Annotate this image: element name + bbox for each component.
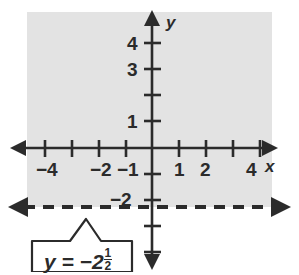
callout-fraction: 12 xyxy=(104,247,113,272)
x-tick-label-neg2: −2 xyxy=(90,160,112,179)
callout-equation-lead: y = −2 xyxy=(44,250,104,273)
x-tick-label-neg1: −1 xyxy=(117,160,139,179)
y-tick-label-neg2: −2 xyxy=(110,190,132,209)
x-axis-label: x xyxy=(265,158,274,175)
y-tick-label-4: 4 xyxy=(127,34,138,53)
dashed-line-arrow-left xyxy=(8,197,28,217)
y-tick-label-3: 3 xyxy=(127,60,138,79)
y-axis-arrow-down xyxy=(144,254,160,270)
x-tick-label-pos2: 2 xyxy=(200,160,211,179)
y-axis-label: y xyxy=(166,14,175,31)
callout-equation: y = −212 xyxy=(44,250,112,275)
fraction-numerator: 1 xyxy=(104,247,113,259)
x-axis-arrow-left xyxy=(10,140,26,156)
y-tick-label-1: 1 xyxy=(127,112,138,131)
x-tick-label-pos4: 4 xyxy=(246,160,257,179)
shaded-region xyxy=(27,12,272,207)
dashed-line-arrow-right xyxy=(271,197,291,217)
x-tick-label-pos1: 1 xyxy=(174,160,185,179)
x-tick-label-neg4: −4 xyxy=(36,160,58,179)
fraction-denominator: 2 xyxy=(104,259,113,272)
